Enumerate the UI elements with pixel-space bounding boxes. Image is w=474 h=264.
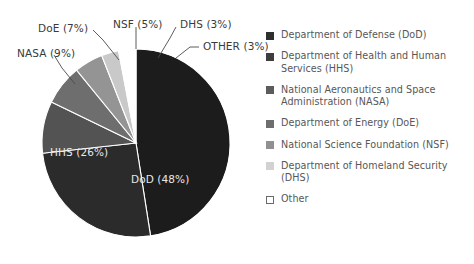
legend-item-label: Department of Defense (DoD)	[281, 29, 426, 42]
legend-swatch-icon	[266, 196, 274, 204]
legend-item-label: Department of Energy (DoE)	[281, 117, 419, 130]
legend-item[interactable]: Department of Energy (DoE)	[266, 117, 466, 130]
legend-item[interactable]: National Aeronautics and Space Administr…	[266, 84, 466, 109]
legend-item-label: Other	[281, 193, 309, 206]
legend-item-label: Department of Health and Human Services …	[281, 50, 459, 75]
chart-legend: Department of Defense (DoD)Department of…	[266, 29, 466, 214]
legend-swatch-icon	[266, 120, 274, 128]
leader-line-nasa	[54, 55, 75, 84]
legend-item[interactable]: Department of Homeland Security (DHS)	[266, 160, 466, 185]
legend-item-label: National Science Foundation (NSF)	[281, 139, 449, 152]
pie-slice-dod[interactable]	[136, 49, 230, 236]
legend-item[interactable]: Department of Defense (DoD)	[266, 29, 466, 42]
legend-item[interactable]: Other	[266, 193, 466, 206]
leader-line-other	[176, 47, 199, 58]
legend-swatch-icon	[266, 32, 274, 40]
legend-swatch-icon	[266, 162, 274, 170]
legend-item[interactable]: Department of Health and Human Services …	[266, 50, 466, 75]
slice-label-other: OTHER (3%)	[203, 40, 269, 52]
slice-label-dhs: DHS (3%)	[180, 18, 232, 30]
legend-swatch-icon	[266, 53, 274, 61]
legend-item-label: Department of Homeland Security (DHS)	[281, 160, 459, 185]
legend-swatch-icon	[266, 141, 274, 149]
leader-line-dhS	[158, 27, 176, 58]
slice-label-hhs: HHS (26%)	[50, 146, 108, 158]
pie-slice-group	[42, 49, 230, 237]
pie-chart-figure: NASA (9%) DoE (7%) NSF (5%) DHS (3%) OTH…	[0, 0, 474, 264]
pie-plot-area: NASA (9%) DoE (7%) NSF (5%) DHS (3%) OTH…	[0, 0, 270, 264]
legend-swatch-icon	[266, 86, 274, 94]
slice-label-nasa: NASA (9%)	[17, 47, 75, 59]
slice-label-dod: DoD (48%)	[131, 173, 189, 185]
slice-label-nsf: NSF (5%)	[113, 18, 163, 30]
slice-label-doe: DoE (7%)	[38, 22, 88, 34]
legend-item-label: National Aeronautics and Space Administr…	[281, 84, 459, 109]
legend-item[interactable]: National Science Foundation (NSF)	[266, 139, 466, 152]
